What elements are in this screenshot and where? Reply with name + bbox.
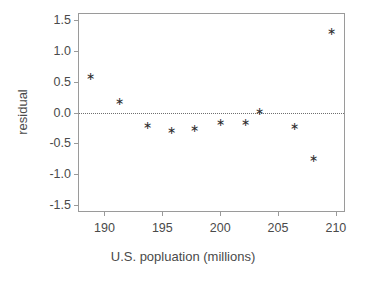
residual-plot-figure: residual U.S. popluation (millions) 1.51… bbox=[0, 0, 366, 284]
x-axis-tick-mark bbox=[104, 211, 105, 216]
y-axis-tick-mark bbox=[74, 143, 79, 144]
data-point: ∗ bbox=[216, 118, 225, 127]
data-point: ∗ bbox=[167, 126, 176, 135]
data-point: ∗ bbox=[327, 27, 336, 36]
x-axis-tick-mark bbox=[278, 211, 279, 216]
data-point: ∗ bbox=[255, 107, 264, 116]
data-point: ∗ bbox=[241, 118, 250, 127]
y-axis-tick-label: -0.5 bbox=[49, 136, 71, 150]
y-axis-tick-label: 1.5 bbox=[54, 13, 71, 27]
y-axis-title: residual bbox=[15, 89, 30, 135]
data-point: ∗ bbox=[290, 122, 299, 131]
x-axis-tick-label: 200 bbox=[210, 221, 231, 235]
x-axis-title: U.S. popluation (millions) bbox=[111, 249, 256, 264]
y-axis-tick-mark bbox=[74, 51, 79, 52]
x-axis-tick-label: 205 bbox=[268, 221, 289, 235]
data-point: ∗ bbox=[190, 124, 199, 133]
y-axis-tick-mark bbox=[74, 113, 79, 114]
y-axis-tick-mark bbox=[74, 82, 79, 83]
y-axis-tick-mark bbox=[74, 20, 79, 21]
y-axis-tick-label: 1.0 bbox=[54, 44, 71, 58]
data-point: ∗ bbox=[86, 72, 95, 81]
y-axis-tick-label: -1.0 bbox=[49, 167, 71, 181]
data-point: ∗ bbox=[309, 154, 318, 163]
y-axis-tick-mark bbox=[74, 205, 79, 206]
y-axis-tick-mark bbox=[74, 174, 79, 175]
x-axis-tick-mark bbox=[336, 211, 337, 216]
x-axis-tick-mark bbox=[220, 211, 221, 216]
y-axis-tick-label: 0.5 bbox=[54, 75, 71, 89]
x-axis-tick-label: 195 bbox=[152, 221, 173, 235]
x-axis-tick-mark bbox=[162, 211, 163, 216]
plot-frame: 1.51.00.50.0-0.5-1.0-1.5190195200205210∗… bbox=[78, 13, 345, 212]
x-axis-tick-label: 190 bbox=[94, 221, 115, 235]
data-point: ∗ bbox=[115, 97, 124, 106]
x-axis-tick-label: 210 bbox=[325, 221, 346, 235]
data-point: ∗ bbox=[143, 121, 152, 130]
plot-area: 1.51.00.50.0-0.5-1.0-1.5190195200205210∗… bbox=[79, 14, 344, 211]
y-axis-tick-label: 0.0 bbox=[54, 106, 71, 120]
y-axis-tick-label: -1.5 bbox=[49, 198, 71, 212]
zero-reference-line bbox=[79, 113, 344, 114]
